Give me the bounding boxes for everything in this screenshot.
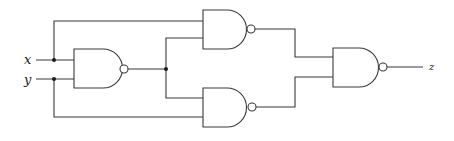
logic-circuit-diagram: x y z xyxy=(0,0,454,141)
output-label-z: z xyxy=(428,61,435,72)
nand-gate-4 xyxy=(333,48,387,87)
inversion-bubble-2 xyxy=(247,25,255,33)
inversion-bubble-1 xyxy=(120,65,128,73)
wire-x xyxy=(36,21,203,60)
inversion-bubble-4 xyxy=(379,63,387,71)
junction-dot-y xyxy=(52,77,56,81)
junction-dot-g1 xyxy=(164,67,168,71)
nand-gate-1 xyxy=(74,49,128,88)
wire-g2-output xyxy=(255,29,333,57)
nand-gate-3 xyxy=(203,88,256,127)
input-label-x: x xyxy=(24,52,32,67)
inversion-bubble-3 xyxy=(248,103,256,111)
input-label-y: y xyxy=(23,72,32,87)
nand-gate-2 xyxy=(203,10,255,49)
wire-g3-output xyxy=(256,77,333,107)
junction-dot-x xyxy=(52,58,56,62)
